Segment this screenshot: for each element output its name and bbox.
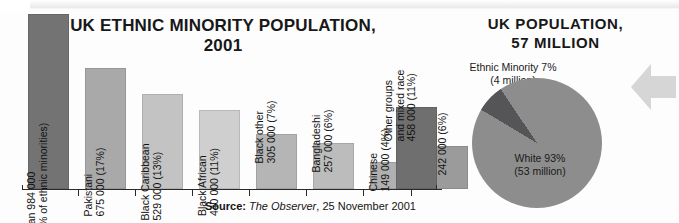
pie-chart bbox=[472, 78, 602, 208]
bar-label-black-caribbean: Black Caribbean 529 000 (13%) bbox=[140, 143, 163, 220]
bar-bangladeshi: Bangladeshi 257 000 (6%) bbox=[313, 143, 354, 189]
pie-label-white-line1: White 93% bbox=[490, 152, 590, 165]
axis-endcap-right bbox=[436, 185, 437, 190]
bar-other-groups-mixed-race-shape: Other groups and mixed race 458 000 (11%… bbox=[396, 107, 437, 189]
axis-tick-5 bbox=[306, 190, 307, 196]
bar-label-pakistani: Pakistani 675 000 (17%) bbox=[83, 148, 106, 217]
bar-label-black-other-line2: 305 000 (7%) bbox=[265, 100, 277, 163]
source-prefix: Source: bbox=[205, 200, 246, 212]
bar-black-caribbean: Black Caribbean 529 000 (13%) bbox=[142, 94, 183, 189]
bar-label-indian-line1: Indian 984 000 bbox=[26, 123, 38, 223]
bar-label-bangladeshi: Bangladeshi 257 000 (6%) bbox=[311, 109, 334, 172]
left-arrow-icon bbox=[629, 58, 677, 116]
axis-tick-1 bbox=[78, 190, 79, 196]
pie-label-white: White 93% (53 million) bbox=[490, 152, 590, 178]
axis-endcap-left bbox=[22, 185, 23, 190]
bar-label-pakistani-line2: 675 000 (17%) bbox=[94, 148, 106, 217]
bar-chart-x-axis bbox=[22, 189, 442, 197]
bar-label-other-groups-line3: 458 000 (11%) bbox=[405, 69, 417, 141]
pie-chart-title-line1: UK POPULATION, bbox=[488, 15, 624, 32]
bar-label-indian-line2: (24% of ethnic minorities) bbox=[37, 123, 49, 223]
bar-label-chinese-line1: Chinese bbox=[368, 128, 380, 191]
bar-label-other-groups-line2: and mixed race bbox=[394, 69, 406, 141]
bar-label-black-caribbean-line2: 529 000 (13%) bbox=[151, 143, 163, 220]
axis-tick-4 bbox=[249, 190, 250, 196]
bar-label-black-caribbean-line1: Black Caribbean bbox=[140, 143, 152, 220]
bar-chart-plot-area: Indian 984 000 (24% of ethnic minorities… bbox=[22, 14, 442, 189]
pie-chart-panel: UK POPULATION, 57 MILLION Ethnic Minorit… bbox=[450, 0, 679, 223]
bar-black-african: Black African 440 000 (11%) bbox=[199, 110, 240, 189]
bar-label-indian: Indian 984 000 (24% of ethnic minorities… bbox=[26, 123, 49, 223]
pie-label-ethnic-minority-line1: Ethnic Minority 7% bbox=[454, 61, 572, 74]
bar-black-other: Black other 305 000 (7%) bbox=[256, 134, 297, 189]
bar-label-black-other-line1: Black other bbox=[254, 100, 266, 163]
bar-label-other-groups-line1: Other groups bbox=[382, 69, 394, 141]
source-publication: The Observer bbox=[249, 200, 316, 212]
bar-label-pakistani-line1: Pakistani bbox=[83, 148, 95, 217]
bar-label-bangladeshi-line1: Bangladeshi bbox=[311, 109, 323, 172]
infographic-page: UK ETHNIC MINORITY POPULATION, 2001 Indi… bbox=[0, 0, 679, 223]
source-note: Source: The Observer, 25 November 2001 bbox=[205, 200, 416, 212]
bar-label-bangladeshi-line2: 257 000 (6%) bbox=[322, 109, 334, 172]
bar-label-black-other: Black other 305 000 (7%) bbox=[254, 100, 277, 163]
axis-tick-7 bbox=[411, 190, 412, 196]
bar-label-other-asian-line2: 242 000 (6%) bbox=[436, 112, 448, 175]
bar-label-other-groups-mixed-race: Other groups and mixed race 458 000 (11%… bbox=[382, 69, 417, 141]
axis-tick-6 bbox=[363, 190, 364, 196]
pie-label-white-line2: (53 million) bbox=[490, 165, 590, 178]
pie-chart-title: UK POPULATION, 57 MILLION bbox=[458, 14, 653, 52]
pie-chart-title-line2: 57 MILLION bbox=[458, 33, 653, 52]
source-rest: , 25 November 2001 bbox=[316, 200, 416, 212]
bar-indian: Indian 984 000 (24% of ethnic minorities… bbox=[28, 14, 69, 189]
axis-tick-3 bbox=[192, 190, 193, 196]
bar-pakistani: Pakistani 675 000 (17%) bbox=[85, 68, 126, 189]
pie-slice-ethnic-minority bbox=[472, 78, 602, 208]
axis-tick-2 bbox=[135, 190, 136, 196]
bar-chart-panel: UK ETHNIC MINORITY POPULATION, 2001 Indi… bbox=[0, 0, 450, 223]
